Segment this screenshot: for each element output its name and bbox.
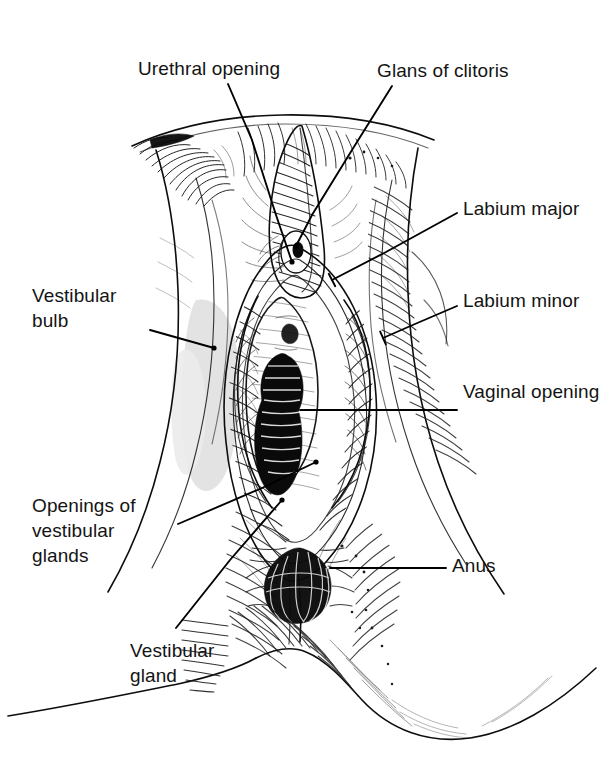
- anatomy-figure: Urethral opening Glans of clitoris Labiu…: [0, 0, 604, 778]
- label-vestibular-bulb[interactable]: Vestibular bulb: [32, 283, 116, 333]
- label-openings-of-vestibular-glands[interactable]: Openings of vestibular glands: [32, 493, 136, 568]
- label-glans-of-clitoris[interactable]: Glans of clitoris: [377, 58, 509, 83]
- leader-line-urethral-opening: [228, 84, 292, 262]
- label-anus[interactable]: Anus: [452, 553, 496, 578]
- leader-endpoint-labium-major: [329, 274, 335, 286]
- label-vaginal-opening[interactable]: Vaginal opening: [463, 379, 599, 404]
- leader-endpoint-vestibular-gland: [279, 497, 284, 502]
- region-mons-pubis: [132, 115, 434, 206]
- leader-endpoint-vestibular-bulb: [211, 345, 216, 350]
- label-labium-minor[interactable]: Labium minor: [463, 288, 579, 313]
- label-labium-major[interactable]: Labium major: [463, 196, 579, 221]
- region-vaginal-introitus: [255, 354, 303, 495]
- leader-endpoint-glans-of-clitoris: [293, 243, 298, 248]
- region-buttocks: [8, 606, 596, 739]
- region-labia-vestibule: [222, 245, 379, 581]
- region-vestibular-bulb-shading: [171, 299, 239, 491]
- leader-line-labium-minor: [383, 306, 457, 338]
- leader-endpoint-urethral-opening: [289, 259, 294, 264]
- label-vestibular-gland[interactable]: Vestibular gland: [130, 638, 214, 688]
- label-urethral-opening[interactable]: Urethral opening: [138, 56, 280, 81]
- leader-endpoint-openings-of-vestibular-glands: [313, 459, 318, 464]
